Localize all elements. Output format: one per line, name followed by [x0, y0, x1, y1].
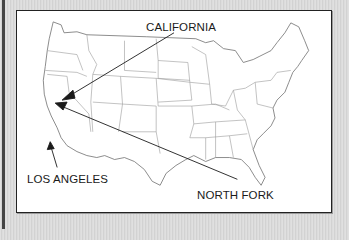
north-fork-arrow-line: [61, 106, 237, 179]
north-fork-arrowhead-icon: [55, 102, 67, 110]
left-edge-rule: [2, 0, 5, 229]
label-north-fork: NORTH FORK: [197, 190, 274, 202]
label-los-angeles: LOS ANGELES: [27, 174, 108, 186]
los-angeles-arrowhead-icon: [47, 142, 54, 150]
label-california: CALIFORNIA: [146, 22, 216, 34]
us-outline: [43, 22, 308, 185]
state-boundaries: [45, 35, 291, 160]
california-arrowhead-icon: [62, 90, 75, 100]
los-angeles-arrow-line: [51, 148, 57, 168]
annotation-arrows: [47, 33, 237, 180]
map-frame: CALIFORNIA LOS ANGELES NORTH FORK: [16, 10, 332, 213]
